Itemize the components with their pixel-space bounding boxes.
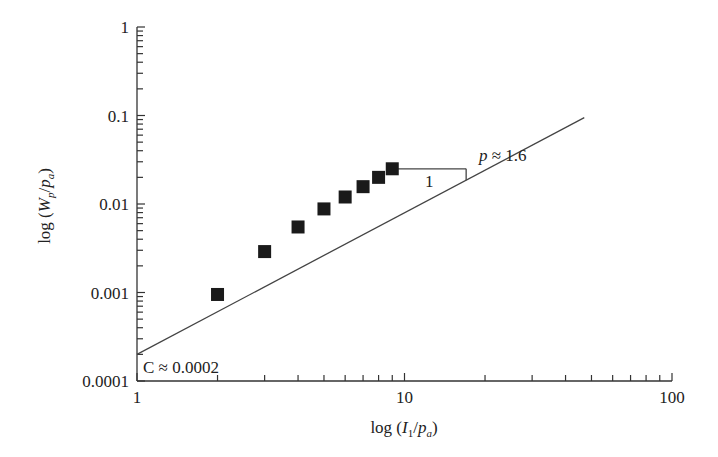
x-tick-label: 10 <box>396 388 413 407</box>
data-point <box>386 162 399 175</box>
slope-value: ≈ 1.6 <box>488 146 527 165</box>
x-tick-labels: 110100 <box>133 388 685 407</box>
intercept-annotation: C ≈ 0.0002 <box>143 358 219 377</box>
log-log-chart: 110100 0.00010.0010.010.11 C ≈ 0.0002 p … <box>0 0 718 457</box>
y-ticks <box>137 27 145 381</box>
data-point <box>258 245 271 258</box>
data-point <box>339 190 352 203</box>
data-point <box>317 202 330 215</box>
data-point <box>211 288 224 301</box>
y-tick-labels: 0.00010.0010.010.11 <box>82 18 129 391</box>
slope-run-label: 1 <box>425 172 434 191</box>
y-tick-label: 0.001 <box>91 284 129 303</box>
x-tick-label: 1 <box>133 388 142 407</box>
y-tick-label: 0.1 <box>108 107 129 126</box>
y-tick-label: 0.0001 <box>82 372 129 391</box>
data-point <box>292 220 305 233</box>
data-point <box>372 171 385 184</box>
axes: 110100 0.00010.0010.010.11 <box>82 18 685 407</box>
y-tick-label: 0.01 <box>99 195 129 214</box>
data-point <box>357 180 370 193</box>
slope-annotation: p ≈ 1.6 <box>478 146 527 165</box>
y-tick-label: 1 <box>121 18 130 37</box>
y-axis-title: log (Wp/pa) <box>35 168 56 244</box>
data-points <box>211 162 399 301</box>
x-tick-label: 100 <box>659 388 685 407</box>
x-axis-title: log (I1/pa) <box>370 418 437 439</box>
slope-symbol: p <box>478 146 488 165</box>
